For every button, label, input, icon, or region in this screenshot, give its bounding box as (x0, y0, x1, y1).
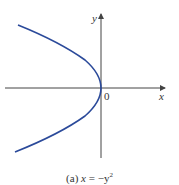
origin-label: 0 (104, 90, 110, 102)
caption-exponent: 2 (109, 171, 113, 179)
caption-prefix: (a) (66, 172, 81, 184)
caption-equation: = −y (86, 172, 109, 184)
figure-caption: (a) x = −y2 (0, 171, 179, 184)
parabola-plot: y x 0 (0, 0, 179, 185)
y-axis-label: y (91, 12, 97, 24)
x-axis-label: x (158, 90, 164, 102)
